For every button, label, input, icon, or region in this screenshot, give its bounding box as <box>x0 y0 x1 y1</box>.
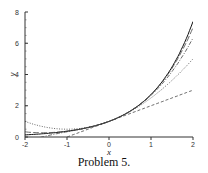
x-axis-label: x <box>106 147 111 155</box>
series-line-2 <box>25 59 193 129</box>
x-tick-label: 1 <box>149 141 153 148</box>
series-line-3 <box>25 38 193 142</box>
y-axis-label: y <box>7 73 17 78</box>
y-tick-label: 8 <box>15 9 19 16</box>
y-tick-label: 6 <box>15 40 19 47</box>
series-line-0 <box>25 22 193 135</box>
y-tick-label: 0 <box>15 134 19 141</box>
x-tick-label: -1 <box>64 141 70 148</box>
x-tick-label: -2 <box>22 141 28 148</box>
y-tick-label: 2 <box>15 102 19 109</box>
series-line-4 <box>25 28 193 133</box>
x-tick-label: 2 <box>191 141 195 148</box>
figure-caption: Problem 5. <box>0 155 208 170</box>
chart-plot: -2-101202468xy <box>0 0 208 155</box>
